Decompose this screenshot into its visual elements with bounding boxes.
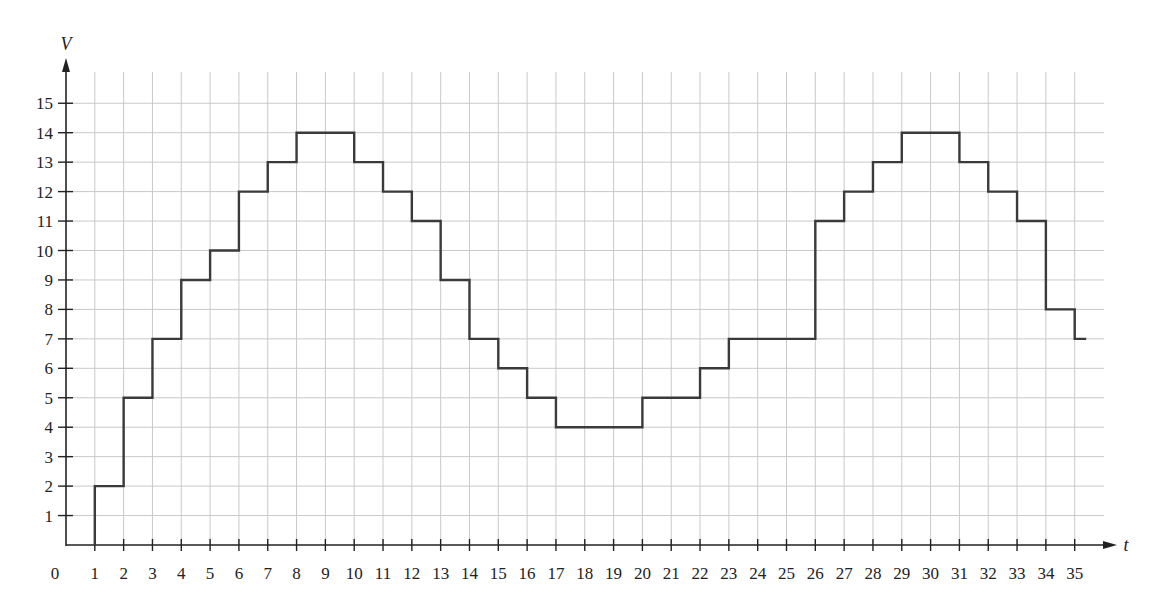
y-tick-label: 13: [36, 153, 53, 172]
y-tick-label: 4: [45, 418, 54, 437]
x-tick-label: 35: [1066, 564, 1083, 583]
x-tick-label: 19: [605, 564, 622, 583]
x-tick-label: 24: [749, 564, 767, 583]
x-tick-label: 5: [206, 564, 215, 583]
x-tick-label: 3: [148, 564, 157, 583]
grid-lines: [66, 72, 1104, 545]
x-axis-label: t: [1123, 535, 1129, 555]
y-tick-label: 1: [45, 507, 54, 526]
x-tick-label: 29: [893, 564, 910, 583]
x-tick-label: 10: [346, 564, 363, 583]
y-tick-label: 12: [36, 183, 53, 202]
step-chart: 1234567891011121314151617181920212223242…: [0, 0, 1164, 612]
x-tick-label: 6: [235, 564, 244, 583]
x-tick-label: 12: [403, 564, 420, 583]
y-tick-label: 6: [45, 359, 54, 378]
origin-label: 0: [51, 564, 60, 583]
x-tick-label: 27: [836, 564, 854, 583]
x-tick-label: 18: [576, 564, 593, 583]
y-tick-label: 2: [45, 477, 54, 496]
x-tick-label: 32: [980, 564, 997, 583]
x-tick-label: 13: [432, 564, 449, 583]
x-tick-label: 30: [922, 564, 939, 583]
x-tick-label: 22: [692, 564, 709, 583]
x-axis-arrow-icon: [1103, 541, 1117, 549]
x-tick-label: 16: [519, 564, 536, 583]
x-tick-label: 9: [321, 564, 330, 583]
y-tick-label: 11: [37, 212, 53, 231]
y-tick-label: 9: [45, 271, 54, 290]
x-tick-label: 8: [292, 564, 301, 583]
x-tick-label: 14: [461, 564, 479, 583]
y-tick-label: 15: [36, 94, 53, 113]
y-tick-label: 8: [45, 300, 54, 319]
y-tick-label: 14: [36, 124, 54, 143]
y-tick-label: 3: [45, 448, 54, 467]
x-tick-label: 28: [864, 564, 881, 583]
y-axis-label: V: [61, 34, 74, 54]
x-tick-label: 1: [91, 564, 100, 583]
y-axis-arrow-icon: [62, 58, 70, 72]
x-tick-label: 33: [1009, 564, 1026, 583]
x-tick-label: 17: [547, 564, 565, 583]
x-tick-label: 23: [720, 564, 737, 583]
y-tick-label: 7: [45, 330, 54, 349]
x-tick-label: 7: [263, 564, 272, 583]
x-tick-label: 4: [177, 564, 186, 583]
x-tick-label: 15: [490, 564, 507, 583]
x-tick-label: 20: [634, 564, 651, 583]
y-tick-label: 5: [45, 389, 54, 408]
x-tick-label: 34: [1037, 564, 1055, 583]
x-tick-label: 2: [119, 564, 128, 583]
x-tick-label: 11: [375, 564, 391, 583]
x-tick-label: 31: [951, 564, 968, 583]
x-tick-label: 21: [663, 564, 680, 583]
x-tick-label: 26: [807, 564, 824, 583]
y-tick-label: 10: [36, 242, 53, 261]
x-tick-label: 25: [778, 564, 795, 583]
y-axis: [62, 58, 70, 546]
